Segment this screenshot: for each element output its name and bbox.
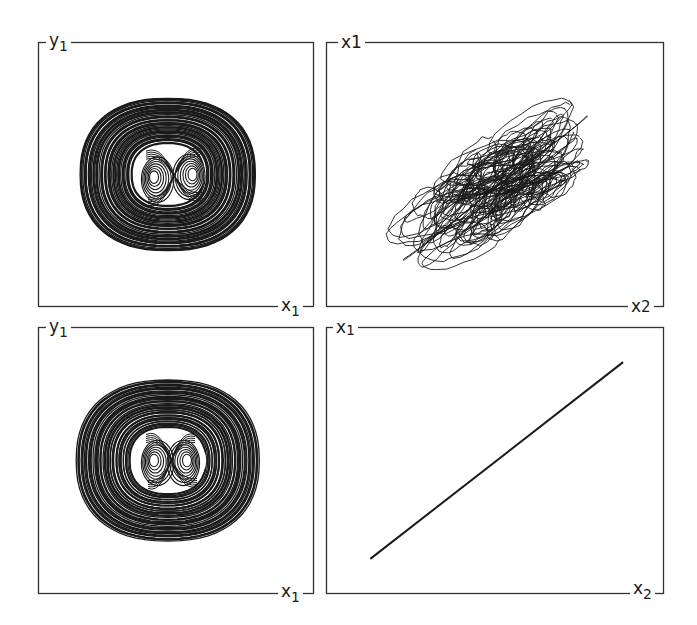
tl-x-axis-label: x1	[278, 297, 303, 320]
bl-y-axis-label: y1	[46, 318, 71, 341]
tr-x-axis-label: x2	[628, 298, 654, 316]
panel-top-right-plot	[386, 98, 588, 269]
panel-bottom-right-plot	[370, 362, 623, 559]
br-y-axis-label: x1	[333, 319, 358, 339]
tl-y-axis-label: y1	[46, 32, 71, 55]
figure-canvas	[0, 0, 697, 625]
panel-top-left-plot	[80, 98, 255, 250]
tr-y-axis-label: x1	[338, 34, 365, 51]
bl-x-axis-label: x1	[278, 583, 303, 606]
br-x-axis-label: x2	[630, 580, 655, 603]
panel-bottom-left-plot	[76, 380, 259, 541]
